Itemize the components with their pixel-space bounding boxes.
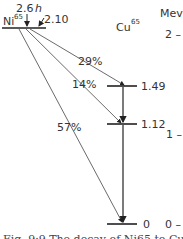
scale-tick-2: 2 – (165, 28, 181, 41)
parent-energy: 2.10 (44, 13, 69, 26)
branch-29-label: 29% (78, 55, 102, 68)
beta-branch-14 (26, 29, 121, 123)
half-life-value: 2.6 (16, 2, 34, 15)
cu-mass: 65 (131, 18, 140, 26)
level-0-label: 0 (143, 218, 150, 231)
decay-scheme-diagram: Ni 65 2.6 h 2.10 Cu 65 1.49 1.12 0 29% 1… (0, 0, 183, 239)
scale-tick-1: 1 – (166, 128, 182, 141)
level-1.12-label: 1.12 (141, 118, 166, 131)
figure-caption: Fig. 9·9 The decay of Ni65 to Cu65 (3, 233, 183, 239)
branch-14-label: 14% (72, 78, 96, 91)
ni-label: Ni (3, 15, 14, 28)
level-1.49-label: 1.49 (141, 80, 166, 93)
half-life-unit: h (35, 2, 42, 15)
branch-57-label: 57% (57, 121, 81, 134)
scale-tick-0: 0 – (165, 218, 181, 231)
scale-unit: Mev (160, 7, 183, 20)
cu-label: Cu (116, 21, 131, 34)
